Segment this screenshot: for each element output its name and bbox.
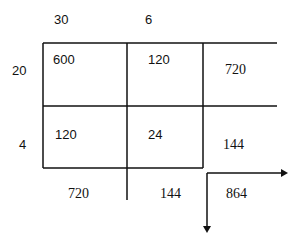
arrow-down-icon xyxy=(203,226,211,233)
cell-r2c2: 24 xyxy=(148,128,162,142)
row-header-2: 4 xyxy=(19,138,26,152)
column-header-2: 6 xyxy=(145,13,152,27)
cell-r1c1: 600 xyxy=(53,53,75,67)
row-total-2: 144 xyxy=(223,138,244,152)
row-header-1: 20 xyxy=(12,64,26,78)
grid-lines xyxy=(0,0,303,242)
cell-r1c2: 120 xyxy=(148,53,170,67)
column-header-1: 30 xyxy=(54,13,68,27)
row-total-1: 720 xyxy=(225,63,246,77)
cell-r2c1: 120 xyxy=(55,128,77,142)
grand-total: 864 xyxy=(226,187,247,201)
column-total-2: 144 xyxy=(160,187,181,201)
column-total-1: 720 xyxy=(68,187,89,201)
arrow-right-icon xyxy=(281,169,288,177)
